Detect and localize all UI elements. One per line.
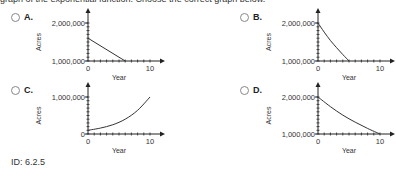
x-axis-label: Year [342, 147, 357, 154]
x-tick-0: 0 [316, 137, 320, 146]
y-tick-bottom: 1,000,000 [282, 130, 315, 139]
data-line [318, 97, 380, 134]
y-axis-label: Acres [265, 106, 272, 124]
x-tick-10: 10 [376, 137, 384, 146]
chart-d: 2,000,0001,000,000010YearAcres [0, 0, 396, 150]
y-axis-arrow-icon [316, 82, 321, 87]
y-tick-top: 2,000,000 [282, 93, 315, 102]
x-axis-arrow-icon [390, 132, 395, 137]
problem-id: ID: 6.2.5 [11, 157, 45, 167]
